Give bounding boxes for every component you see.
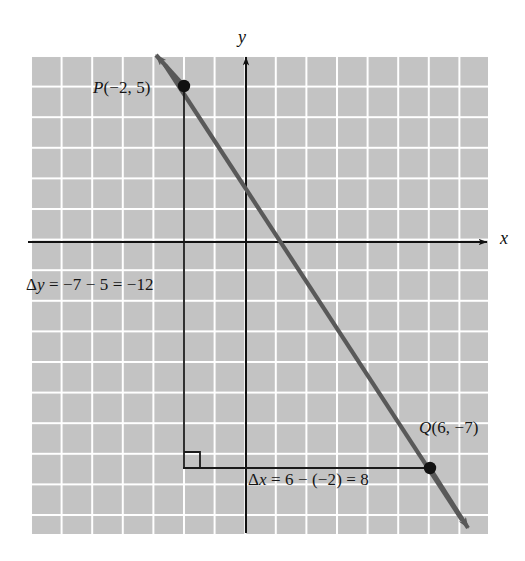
delta-y-label: Δy = −7 − 5 = −12 [26,275,154,295]
slope-diagram-figure: P(−2, 5) Q(6, −7) Δy = −7 − 5 = −12 Δx =… [0,0,525,561]
point-q-marker [424,462,436,474]
delta-x-label: Δx = 6 − (−2) = 8 [248,470,369,490]
point-q-label: Q(6, −7) [419,418,479,438]
point-p-marker [178,80,190,92]
y-axis-label: y [238,27,246,48]
x-axis-label: x [500,228,508,249]
point-p-label: P(−2, 5) [93,78,151,98]
